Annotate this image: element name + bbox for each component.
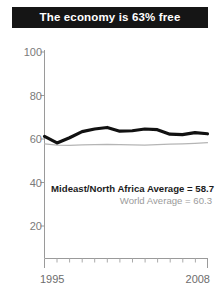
- chart-title-banner: The economy is 63% free: [12, 7, 208, 28]
- y-tick-label-60: 60: [8, 134, 42, 145]
- series-line-mideast-north-africa: [45, 127, 208, 142]
- y-tick-label-80: 80: [8, 91, 42, 102]
- chart-annotations: Mideast/North Africa Average = 58.7 Worl…: [36, 183, 214, 208]
- chart-figure: The economy is 63% free: [0, 0, 220, 298]
- chart-title: The economy is 63% free: [40, 12, 181, 24]
- x-tick-label-2008: 2008: [186, 274, 210, 285]
- y-axis-tick-labels: 100 80 60 40 20: [4, 36, 42, 276]
- series-line-world: [45, 143, 208, 146]
- annotation-world-average: World Average = 60.3: [36, 195, 214, 208]
- y-tick-label-20: 20: [8, 221, 42, 232]
- y-tick-label-100: 100: [8, 47, 42, 58]
- annotation-region-average: Mideast/North Africa Average = 58.7: [36, 183, 214, 195]
- x-axis-ticks: [57, 259, 195, 263]
- x-tick-label-1995: 1995: [40, 274, 64, 285]
